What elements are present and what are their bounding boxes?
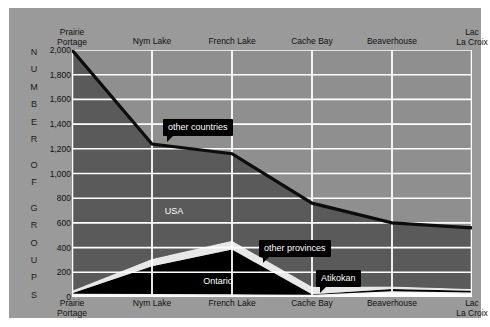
y-axis-tick-label: 400	[57, 243, 71, 253]
y-axis-title-letter: E	[31, 118, 37, 127]
y-axis-title-letter: G	[30, 204, 37, 213]
chart-panel: NUMBEROFGROUPS 2,0001,8001,6001,4001,200…	[9, 8, 481, 318]
x-axis-label-bottom: Prairie Portage	[32, 299, 112, 318]
y-axis-title-letter: P	[31, 273, 37, 282]
stacked-area-svg	[72, 50, 472, 297]
x-axis-label-bottom: Lac La Croix	[432, 299, 490, 318]
x-axis-label-top: Nym Lake	[112, 37, 192, 47]
x-axis-label-top: Beaverhouse	[352, 37, 432, 47]
y-axis-title-letter: R	[31, 135, 38, 144]
callout-tail	[167, 135, 174, 142]
y-axis-title-letter: M	[30, 83, 38, 92]
chart-figure: NUMBEROFGROUPS 2,0001,8001,6001,4001,200…	[0, 0, 490, 327]
callout-atikokan: Atikokan	[316, 270, 361, 287]
inline-label-ontario: Ontario	[203, 276, 233, 286]
callout-other-provinces: other provinces	[259, 240, 331, 257]
x-axis-label-top: French Lake	[192, 37, 272, 47]
y-axis-title-letter: U	[31, 256, 38, 265]
y-axis-tick-label: 1,800	[50, 70, 71, 80]
y-axis-tick-label: 800	[57, 193, 71, 203]
x-axis-label-top: Cache Bay	[272, 37, 352, 47]
y-axis-tick-label: 1,200	[50, 144, 71, 154]
inline-label-usa: USA	[165, 206, 184, 216]
y-axis-tick-label: 200	[57, 267, 71, 277]
y-axis-title-letter: U	[31, 65, 38, 74]
y-axis-title-letter: R	[31, 221, 38, 230]
y-axis-tick-label: 1,600	[50, 94, 71, 104]
y-axis-title-letter: N	[31, 48, 38, 57]
x-axis-label-top: Prairie Portage	[32, 28, 112, 47]
callout-other-countries: other countries	[163, 119, 233, 136]
x-axis-label-bottom: French Lake	[192, 299, 272, 309]
y-axis-title-letter: O	[30, 161, 37, 170]
y-axis-title-letter: B	[31, 100, 37, 109]
y-axis-tick-labels: 2,0001,8001,6001,4001,2001,0008006004002…	[39, 44, 71, 304]
x-axis-label-bottom: Nym Lake	[112, 299, 192, 309]
y-axis-tick-label: 1,000	[50, 169, 71, 179]
y-axis-tick-label: 600	[57, 218, 71, 228]
x-axis-label-bottom: Beaverhouse	[352, 299, 432, 309]
y-axis-title-letter: O	[30, 239, 37, 248]
x-axis-label-bottom: Cache Bay	[272, 299, 352, 309]
plot-area	[72, 50, 472, 297]
x-axis-label-top: Lac La Croix	[432, 28, 490, 47]
y-axis-tick-label: 1,400	[50, 119, 71, 129]
callout-tail	[263, 256, 270, 263]
callout-tail	[320, 286, 327, 293]
y-axis-title-letter: F	[31, 178, 37, 187]
